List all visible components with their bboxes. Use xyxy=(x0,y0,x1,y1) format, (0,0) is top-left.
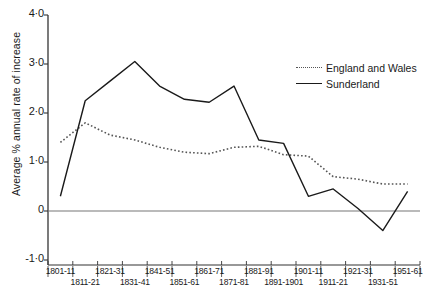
plot-area xyxy=(0,0,427,305)
x-axis-tick-label: 1821-31 xyxy=(95,266,125,276)
x-axis-tick-label: 1891-1901 xyxy=(264,277,303,287)
x-axis-tick-label: 1951-61 xyxy=(393,266,423,276)
x-axis-tick-label: 1841-51 xyxy=(145,266,175,276)
legend-label-sunderland: Sunderland xyxy=(326,78,380,90)
x-axis-tick-label: 1801-11 xyxy=(46,266,75,276)
x-axis-tick-label: 1921-31 xyxy=(343,266,373,276)
x-axis-tick-label: 1831-41 xyxy=(120,277,150,287)
x-axis-tick-label: 1911-21 xyxy=(319,277,348,287)
x-axis-tick-label: 1871-81 xyxy=(219,277,249,287)
x-axis-tick-label: 1851-61 xyxy=(169,277,199,287)
legend-swatch-solid-icon xyxy=(296,80,322,88)
x-axis-tick-label: 1861-71 xyxy=(194,266,224,276)
x-axis-tick-label: 1881-91 xyxy=(244,266,274,276)
legend-swatch-dotted-icon xyxy=(296,64,322,72)
legend-item-sunderland: Sunderland xyxy=(296,78,380,90)
chart-figure: Average % annual rate of increase 4·03·0… xyxy=(0,0,427,305)
legend-item-england-and-wales: England and Wales xyxy=(296,62,417,74)
x-axis-tick-label: 1811-21 xyxy=(71,277,100,287)
legend-label-england-and-wales: England and Wales xyxy=(326,62,417,74)
x-axis-tick-label: 1931-51 xyxy=(368,277,398,287)
series-line-england-and-wales xyxy=(60,123,407,184)
x-axis-tick-label: 1901-11 xyxy=(294,266,323,276)
